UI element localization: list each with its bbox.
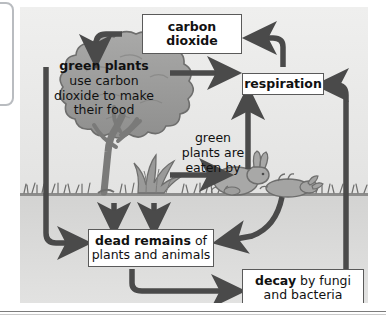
carbon-dioxide-line1: carbon <box>168 20 216 34</box>
dead-remains-line2: plants and animals <box>92 248 211 262</box>
node-respiration[interactable]: respiration <box>242 73 324 95</box>
arrow-decay-to-respiration <box>332 85 346 269</box>
dead-remains-line1: dead remains of <box>95 234 207 248</box>
eaten-by-line2: plants are <box>172 146 254 161</box>
node-carbon-dioxide[interactable]: carbon dioxide <box>142 14 242 54</box>
green-plants-line1: use carbon <box>42 74 166 89</box>
green-plants-line2: dioxide to make <box>42 89 166 104</box>
decay-rest: by fungi <box>296 273 351 288</box>
arrow-dead-rabbit-to-dead-remains <box>230 197 282 240</box>
decay-line1: decay by fungi <box>255 274 351 288</box>
node-decay[interactable]: decay by fungi and bacteria <box>242 269 364 303</box>
arrow-co2-to-green-plants <box>96 34 122 51</box>
arrow-dead-remains-to-decay <box>132 269 228 291</box>
dead-remains-rest: of <box>191 233 207 248</box>
green-plants-heading: green plants <box>42 59 166 74</box>
carbon-cycle-diagram: carbon dioxide respiration dead remains … <box>0 0 386 329</box>
horizontal-rule-shadow <box>0 314 386 315</box>
eaten-by-line1: green <box>172 131 254 146</box>
carbon-dioxide-line2: dioxide <box>166 34 218 48</box>
node-green-plants: green plants use carbon dioxide to make … <box>42 59 166 118</box>
outer-frame-fragment-inner <box>0 4 10 104</box>
decay-bold: decay <box>255 273 296 288</box>
diagram-panel: carbon dioxide respiration dead remains … <box>20 7 368 303</box>
eaten-by-line3: eaten by <box>172 161 254 176</box>
horizontal-rule <box>0 311 386 312</box>
dead-remains-bold: dead remains <box>95 233 191 248</box>
decay-line2: and bacteria <box>264 288 343 302</box>
label-eaten-by: green plants are eaten by <box>172 131 254 175</box>
arrow-respiration-to-co2 <box>260 38 283 67</box>
respiration-label: respiration <box>244 77 322 91</box>
green-plants-line3: their food <box>42 103 166 118</box>
node-dead-remains[interactable]: dead remains of plants and animals <box>88 229 214 267</box>
